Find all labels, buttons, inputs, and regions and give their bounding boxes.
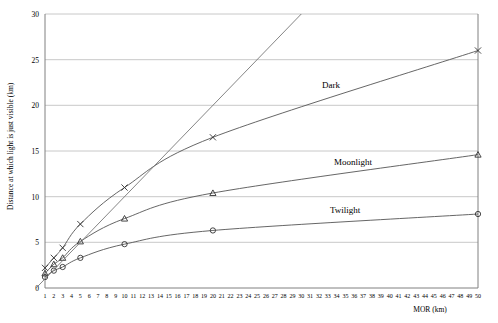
x-tick-label: 35 xyxy=(342,293,348,299)
x-tick-label: 7 xyxy=(97,293,100,299)
x-tick-label: 12 xyxy=(139,293,145,299)
x-tick-label: 39 xyxy=(378,293,384,299)
data-point-x-marker xyxy=(210,134,216,140)
x-tick-label: 40 xyxy=(387,293,393,299)
x-tick-label: 5 xyxy=(79,293,82,299)
x-tick-label: 22 xyxy=(228,293,234,299)
x-tick-label: 37 xyxy=(360,293,366,299)
data-point-x-marker xyxy=(77,221,83,227)
series-line-twilight xyxy=(45,214,478,277)
y-tick-label-25: 25 xyxy=(32,56,40,65)
x-tick-label: 24 xyxy=(245,293,251,299)
x-tick-label: 14 xyxy=(157,293,163,299)
x-tick-label: 17 xyxy=(183,293,189,299)
x-tick-label: 48 xyxy=(457,293,463,299)
data-point-x-marker xyxy=(51,255,57,261)
x-tick-label: 15 xyxy=(166,293,172,299)
x-tick-label: 38 xyxy=(369,293,375,299)
x-tick-label: 45 xyxy=(431,293,437,299)
x-tick-label: 42 xyxy=(404,293,410,299)
series-label-dark: Dark xyxy=(322,80,340,90)
x-axis-title: MOR (km) xyxy=(413,305,447,314)
data-point-x-marker xyxy=(121,184,127,190)
x-tick-label: 43 xyxy=(413,293,419,299)
y-axis-title: Distance at which light is just visible … xyxy=(6,82,15,210)
y-tick-labels: 30 25 20 15 10 5 0 xyxy=(32,10,40,293)
x-tick-label: 1 xyxy=(44,293,47,299)
gridlines xyxy=(45,14,478,242)
x-tick-label: 18 xyxy=(192,293,198,299)
x-tick-labels: 1234567891011121314151617181920212223242… xyxy=(44,293,482,299)
series-line-dark xyxy=(45,51,478,268)
x-tick-label: 19 xyxy=(201,293,207,299)
x-tick-label: 36 xyxy=(351,293,357,299)
x-tick-label: 3 xyxy=(61,293,64,299)
x-tick-label: 21 xyxy=(219,293,225,299)
line-chart: 30 25 20 15 10 5 0 123456789101112131415… xyxy=(0,0,498,323)
series-line-moonlight xyxy=(45,155,478,274)
x-tick-label: 20 xyxy=(210,293,216,299)
x-tick-label: 11 xyxy=(130,293,136,299)
series-label-moonlight: Moonlight xyxy=(334,157,373,167)
x-tick-label: 46 xyxy=(440,293,446,299)
data-point-x-marker xyxy=(60,245,66,251)
x-tick-label: 44 xyxy=(422,293,428,299)
x-tick-label: 8 xyxy=(105,293,108,299)
x-tick-label: 25 xyxy=(254,293,260,299)
y-tick-label-30: 30 xyxy=(32,10,40,19)
chart-container: 30 25 20 15 10 5 0 123456789101112131415… xyxy=(0,0,498,323)
x-tick-label: 47 xyxy=(448,293,454,299)
y-tick-label-10: 10 xyxy=(32,193,40,202)
x-tick-label: 10 xyxy=(122,293,128,299)
x-tick-label: 6 xyxy=(88,293,91,299)
y-tick-label-15: 15 xyxy=(32,147,40,156)
x-tick-label: 27 xyxy=(272,293,278,299)
x-tick-label: 4 xyxy=(70,293,73,299)
x-tick-label: 31 xyxy=(307,293,313,299)
x-tick-label: 26 xyxy=(263,293,269,299)
x-tick-label: 41 xyxy=(395,293,401,299)
x-tick-label: 34 xyxy=(334,293,340,299)
x-tick-label: 16 xyxy=(175,293,181,299)
x-tick-label: 32 xyxy=(316,293,322,299)
x-tick-label: 13 xyxy=(148,293,154,299)
x-tick-label: 29 xyxy=(289,293,295,299)
x-tick-label: 28 xyxy=(281,293,287,299)
y-tick-label-5: 5 xyxy=(35,238,39,247)
x-tick-label: 23 xyxy=(236,293,242,299)
x-tick-label: 50 xyxy=(475,293,481,299)
x-tick-label: 9 xyxy=(114,293,117,299)
y-tick-label-20: 20 xyxy=(32,101,40,110)
x-tick-label: 2 xyxy=(52,293,55,299)
x-tick-label: 33 xyxy=(325,293,331,299)
x-tick-label: 49 xyxy=(466,293,472,299)
x-tick-label: 30 xyxy=(298,293,304,299)
series-label-twilight: Twilight xyxy=(330,205,361,215)
